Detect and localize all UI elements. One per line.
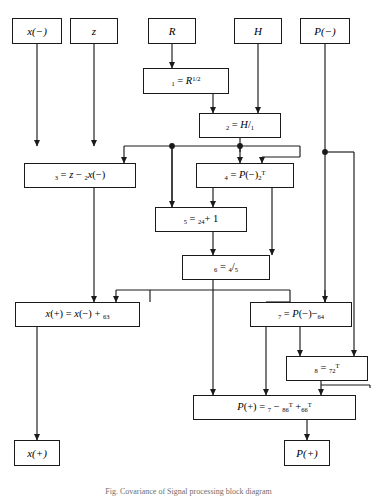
process-label-T6: 𝏿6 = 𝏿4/𝏿5 [214, 261, 238, 273]
process-box-T1[interactable]: 𝏿1 = R1/2 [143, 68, 229, 94]
input-label-H: H [254, 26, 262, 37]
input-box-z[interactable]: z [70, 18, 118, 44]
junction-dot-t2bus-mid [237, 143, 243, 149]
process-box-P-plus-eq[interactable]: P(+) = 𝏿7 − 𝏿8𝏿6T +𝏿6𝏿6T [193, 395, 356, 420]
input-box-P-minus[interactable]: P(−) [300, 18, 350, 44]
process-label-T8: 𝏿8 = 𝏿7𝏿2T [315, 362, 340, 374]
process-box-T5[interactable]: 𝏿5 = 𝏿2𝏿4+ 1 [155, 207, 247, 232]
process-box-T4[interactable]: 𝏿4 = P(−)𝏿2T [196, 163, 294, 188]
process-label-T2: 𝏿2 = H/𝏿1 [226, 119, 254, 131]
input-box-R[interactable]: R [148, 18, 196, 44]
output-label-x-plus: x(+) [27, 448, 47, 459]
process-box-T3[interactable]: 𝏿3 = z − 𝏿2x(−) [24, 163, 136, 188]
process-label-x-plus-eq: x(+) = x(−) + 𝏿6𝏿3 [45, 308, 109, 320]
process-label-T4: 𝏿4 = P(−)𝏿2T [225, 169, 266, 181]
input-box-H[interactable]: H [234, 18, 282, 44]
process-box-T6[interactable]: 𝏿6 = 𝏿4/𝏿5 [182, 255, 270, 280]
output-box-x-plus[interactable]: x(+) [14, 440, 60, 466]
process-label-P-plus-eq: P(+) = 𝏿7 − 𝏿8𝏿6T +𝏿6𝏿6T [237, 401, 311, 413]
junction-dots [169, 143, 328, 155]
output-box-P-plus[interactable]: P(+) [284, 440, 330, 466]
process-box-T7[interactable]: 𝏿7 = P(−)−𝏿6𝏿4 [250, 302, 352, 327]
process-label-T3: 𝏿3 = z − 𝏿2x(−) [55, 169, 106, 181]
junction-dot-pminus [322, 149, 328, 155]
input-label-x-minus: x(−) [27, 26, 47, 37]
output-label-P-plus: P(+) [296, 448, 317, 459]
figure-caption: Fig. Covariance of Signal processing blo… [0, 487, 377, 496]
input-label-P-minus: P(−) [314, 26, 335, 37]
junction-dot-t2bus-left [169, 143, 175, 149]
input-box-x-minus[interactable]: x(−) [12, 18, 62, 44]
input-label-z: z [92, 26, 96, 37]
input-label-R: R [169, 26, 176, 37]
process-box-x-plus-eq[interactable]: x(+) = x(−) + 𝏿6𝏿3 [15, 302, 140, 327]
process-box-T2[interactable]: 𝏿2 = H/𝏿1 [199, 113, 281, 138]
process-label-T1: 𝏿1 = R1/2 [171, 75, 200, 87]
process-label-T7: 𝏿7 = P(−)−𝏿6𝏿4 [278, 308, 324, 320]
process-box-T8[interactable]: 𝏿8 = 𝏿7𝏿2T [286, 356, 368, 381]
process-label-T5: 𝏿5 = 𝏿2𝏿4+ 1 [184, 213, 219, 225]
